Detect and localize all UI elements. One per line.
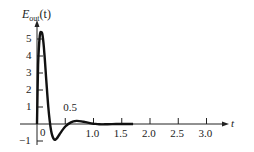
y-axis-label: Eout(t) [22, 7, 51, 23]
y-tick-label: 5 [26, 33, 32, 44]
y-tick-label: 4 [26, 50, 32, 61]
x-axis-label: t [231, 118, 234, 129]
x-tick-label: 3.0 [199, 128, 213, 139]
x-tick-label: 2.0 [142, 128, 156, 139]
x-tick-label: 0.5 [63, 102, 77, 113]
y-tick-label: −1 [19, 135, 31, 146]
y-tick-label: 2 [26, 84, 32, 95]
y-tick-label: 3 [26, 67, 32, 78]
x-tick-label: 1.0 [86, 128, 100, 139]
origin-label: 0 [40, 127, 46, 138]
x-tick-label: 2.5 [170, 128, 184, 139]
y-tick-label: 1 [26, 101, 32, 112]
x-axis-arrow-icon [222, 122, 229, 127]
x-tick-label: 1.5 [114, 128, 128, 139]
